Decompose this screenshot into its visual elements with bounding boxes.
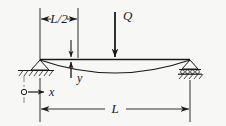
x-axis-label: x bbox=[48, 85, 55, 99]
left-support-triangle bbox=[31, 60, 49, 70]
y-axis-label: y bbox=[76, 71, 83, 85]
right-ground-hatching bbox=[179, 74, 203, 79]
coordinate-origin: x bbox=[21, 76, 55, 103]
beam-diagram-svg: L/2 Q bbox=[0, 0, 226, 126]
beam-diagram-figure: L/2 Q bbox=[0, 0, 226, 126]
right-roller-wheels bbox=[181, 70, 200, 74]
deflection-curve bbox=[40, 60, 190, 73]
half-span-label: L/2 bbox=[49, 11, 68, 26]
deflection-axis-y: y bbox=[71, 62, 83, 85]
full-span-dimension: L bbox=[40, 78, 190, 122]
load-label: Q bbox=[123, 8, 133, 23]
point-load-Q: Q bbox=[115, 8, 133, 57]
left-ground-hatching bbox=[19, 71, 53, 77]
half-span-dimension: L/2 bbox=[40, 8, 78, 60]
full-span-label: L bbox=[110, 101, 118, 116]
origin-circle bbox=[21, 89, 26, 94]
